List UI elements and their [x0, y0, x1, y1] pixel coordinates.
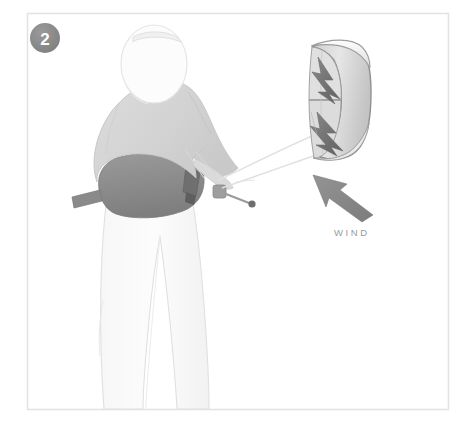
illustration-canvas: WIND 2 [0, 0, 475, 433]
kite-canopy [309, 40, 371, 160]
wind-label: WIND [334, 227, 370, 238]
rider-head [121, 25, 187, 104]
panel-frame [28, 14, 449, 410]
step-badge: 2 [30, 23, 60, 53]
control-bar-end-ball [248, 200, 255, 207]
kiteboarding-step-illustration: WIND 2 [0, 0, 475, 433]
step-badge-number: 2 [40, 30, 49, 49]
